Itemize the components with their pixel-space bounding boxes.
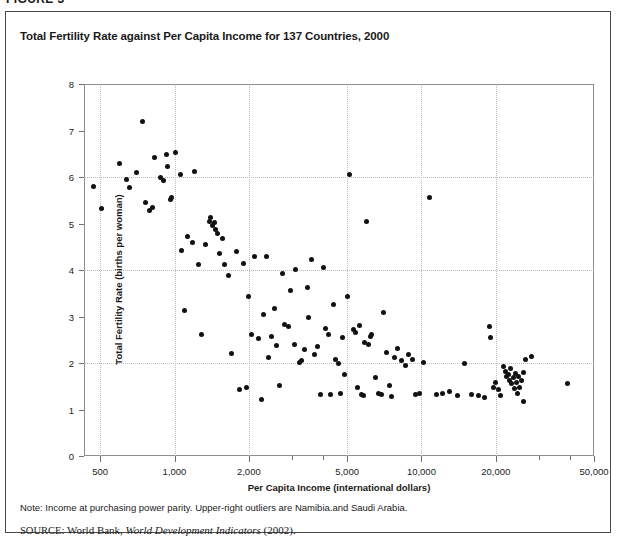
data-point: [241, 261, 246, 266]
data-point: [302, 347, 307, 352]
data-point: [364, 219, 369, 224]
data-point: [259, 397, 264, 402]
source-publisher: World Bank,: [67, 524, 123, 536]
data-point: [521, 399, 526, 404]
source-year: (2002).: [264, 524, 296, 536]
data-point: [244, 385, 249, 390]
gridline-horizontal: [84, 270, 594, 271]
scatter-plot: 5001,0002,0005,00010,00020,00050,000 012…: [84, 84, 594, 456]
data-point: [462, 361, 467, 366]
y-tick: [79, 410, 84, 411]
data-point: [212, 220, 217, 225]
data-point: [488, 335, 493, 340]
y-tick-label: 6: [54, 172, 74, 183]
data-point: [361, 393, 366, 398]
x-tick-major: [249, 456, 250, 462]
data-point: [491, 385, 496, 390]
data-point: [220, 236, 225, 241]
y-tick: [79, 270, 84, 271]
x-tick-label: 10,000: [407, 466, 436, 477]
data-point: [234, 249, 239, 254]
data-point: [99, 206, 104, 211]
data-point: [292, 342, 297, 347]
y-tick-label: 4: [54, 265, 74, 276]
data-point: [321, 265, 326, 270]
data-point: [293, 267, 298, 272]
x-tick-minor: [323, 456, 324, 460]
data-point: [249, 332, 254, 337]
source-title: World Development Indicators: [126, 524, 261, 536]
x-tick-label: 50,000: [579, 466, 608, 477]
data-point: [517, 385, 522, 390]
data-point: [338, 391, 343, 396]
x-tick-minor: [570, 456, 571, 460]
data-point: [203, 242, 208, 247]
data-point: [410, 357, 415, 362]
data-point: [152, 155, 157, 160]
y-tick-label: 5: [54, 218, 74, 229]
y-tick: [79, 177, 84, 178]
x-tick-label: 500: [92, 466, 108, 477]
data-point: [395, 346, 400, 351]
x-tick-minor: [539, 456, 540, 460]
y-tick-label: 3: [54, 311, 74, 322]
data-point: [417, 391, 422, 396]
x-tick-major: [594, 456, 595, 462]
data-point: [150, 205, 155, 210]
data-point: [134, 170, 139, 175]
y-tick-label: 8: [54, 79, 74, 90]
x-tick-major: [347, 456, 348, 462]
x-tick-label: 20,000: [481, 466, 510, 477]
y-tick: [79, 456, 84, 457]
data-point: [264, 254, 269, 259]
data-point: [124, 177, 129, 182]
x-tick-major: [100, 456, 101, 462]
data-point: [196, 262, 201, 267]
y-axis-title: Total Fertility Rate (births per woman): [113, 140, 124, 420]
y-tick: [79, 363, 84, 364]
data-point: [529, 354, 534, 359]
data-point: [366, 342, 371, 347]
data-point: [266, 355, 271, 360]
figure-source: SOURCE: World Bank, World Development In…: [20, 524, 296, 536]
data-point: [347, 172, 352, 177]
data-point: [305, 285, 310, 290]
data-point: [199, 332, 204, 337]
data-point: [384, 350, 389, 355]
data-point: [476, 393, 481, 398]
data-point: [256, 336, 261, 341]
y-tick: [79, 131, 84, 132]
data-point: [455, 393, 460, 398]
y-tick: [79, 224, 84, 225]
y-tick: [79, 317, 84, 318]
data-point: [421, 360, 426, 365]
data-point: [269, 334, 274, 339]
data-point: [190, 240, 195, 245]
data-point: [487, 324, 492, 329]
x-tick-label: 2,000: [237, 466, 261, 477]
data-point: [434, 392, 439, 397]
data-point: [355, 385, 360, 390]
source-keyword: SOURCE:: [20, 525, 64, 536]
x-axis-title: Per Capita Income (international dollars…: [84, 482, 594, 493]
data-point: [381, 310, 386, 315]
y-tick-label: 7: [54, 125, 74, 136]
figure-label: FIGURE 3: [6, 0, 65, 4]
data-point: [326, 332, 331, 337]
y-tick-label: 1: [54, 404, 74, 415]
figure-note: Note: Income at purchasing power parity.…: [20, 502, 407, 513]
data-point: [143, 200, 148, 205]
x-tick-label: 1,000: [163, 466, 187, 477]
data-point: [403, 363, 408, 368]
data-point: [91, 184, 96, 189]
figure-title: Total Fertility Rate against Per Capita …: [20, 30, 389, 42]
x-tick-major: [421, 456, 422, 462]
data-point: [440, 391, 445, 396]
x-tick-minor: [292, 456, 293, 460]
data-point: [323, 326, 328, 331]
y-tick-label: 2: [54, 358, 74, 369]
y-tick: [79, 84, 84, 85]
data-point: [226, 273, 231, 278]
data-point: [277, 383, 282, 388]
data-point: [387, 383, 392, 388]
